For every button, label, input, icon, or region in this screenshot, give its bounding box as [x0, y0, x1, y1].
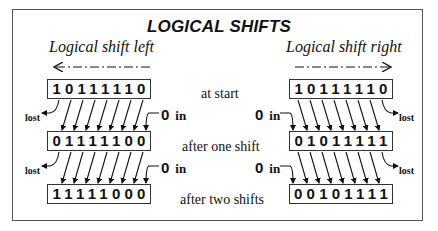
left-shift-arrows-1: [42, 100, 159, 130]
right-shift-arrows-2: [280, 152, 398, 183]
left-shift-arrows-2: [42, 152, 159, 183]
arrows-layer: [0, 0, 438, 231]
right-shift-arrows-1: [280, 100, 398, 130]
logical-shifts-diagram: LOGICAL SHIFTS Logical shift left Logica…: [0, 0, 438, 231]
